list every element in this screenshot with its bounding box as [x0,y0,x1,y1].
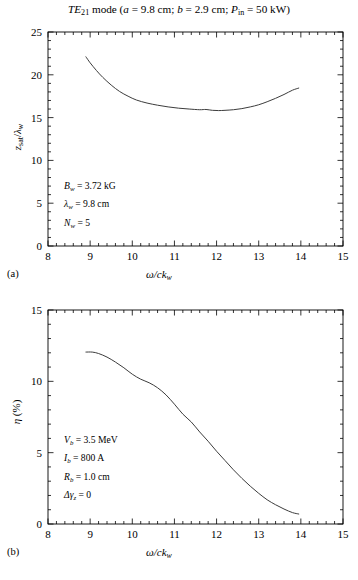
panel-a: 891011121314150510152025 zsat/λw ω/ckw B… [0,18,358,288]
svg-text:25: 25 [31,26,43,38]
xlabel-k-sub-b: w [167,551,172,560]
title-mode-sub: 21 [81,8,89,17]
annotation-vb-value: = 3.5 MeV [76,434,118,445]
annotation-lambdaw-sub: w [68,203,73,210]
title-b-symbol: b [177,3,183,15]
svg-text:11: 11 [169,528,180,540]
xlabel-k-sub: w [167,273,172,282]
svg-text:10: 10 [127,250,139,262]
svg-text:15: 15 [31,304,43,316]
ylabel-z-sub: sat [16,137,25,146]
svg-text:14: 14 [295,528,307,540]
panel-b-annotations: Vb = 3.5 MeV Ib = 800 A Rb = 1.0 cm Δγz … [64,432,118,506]
annotation-nw-sub: w [70,222,75,229]
ylabel-z: z [11,146,23,150]
panel-b-plot: 89101112131415051015 [0,296,358,566]
title-a-value: = 9.8 cm; [132,3,175,15]
annotation-rb: Rb = 1.0 cm [64,469,118,487]
annotation-rb-value: = 1.0 cm [76,471,110,482]
annotation-dgammaz-symbol: Δγ [64,489,73,500]
title-p-symbol: P [231,3,238,15]
annotation-ib-sub: b [67,457,70,464]
panel-b-ylabel: η (%) [10,382,22,442]
annotation-vb: Vb = 3.5 MeV [64,432,118,450]
svg-text:15: 15 [338,250,350,262]
title-mode-prefix: TE [68,3,81,15]
svg-text:13: 13 [253,250,265,262]
svg-text:5: 5 [37,197,43,209]
annotation-rb-sub: b [70,476,73,483]
ylabel-lambda: λ [11,129,23,134]
annotation-dgammaz: Δγz = 0 [64,487,118,505]
annotation-lambdaw: λw = 9.8 cm [64,196,116,214]
svg-text:20: 20 [31,69,43,81]
svg-text:8: 8 [45,528,51,540]
svg-text:14: 14 [295,250,307,262]
annotation-nw-value: = 5 [77,217,90,228]
svg-text:12: 12 [211,528,222,540]
panel-a-annotations: Bw = 3.72 kG λw = 9.8 cm Nw = 5 [64,178,116,233]
annotation-ib: Ib = 800 A [64,450,118,468]
panel-a-ylabel: zsat/λw [11,107,25,167]
svg-text:9: 9 [87,250,93,262]
title-mode-word: mode [92,3,117,15]
panel-a-xlabel: ω/ckw [146,268,172,282]
annotation-nw: Nw = 5 [64,215,116,233]
ylabel-lambda-sub: w [16,124,25,129]
panel-b-label: (b) [7,546,19,557]
ylabel-slash: / [11,134,23,137]
svg-text:9: 9 [87,528,93,540]
svg-text:8: 8 [45,250,51,262]
panel-b: 89101112131415051015 η (%) ω/ckw Vb = 3.… [0,296,358,580]
panel-b-xlabel: ω/ckw [146,546,172,560]
svg-text:11: 11 [169,250,180,262]
annotation-bw-value: = 3.72 kG [77,180,116,191]
panel-a-label: (a) [7,268,19,279]
svg-text:12: 12 [211,250,222,262]
title-b-value: = 2.9 cm; [186,3,229,15]
svg-text:13: 13 [253,528,265,540]
title-p-value: = 50 kW) [247,3,290,15]
svg-text:15: 15 [338,528,350,540]
annotation-lambdaw-value: = 9.8 cm [75,198,109,209]
panel-a-plot: 891011121314150510152025 [0,18,358,288]
annotation-dgammaz-value: = 0 [79,489,92,500]
ylabel-eta-unit: (%) [10,400,22,417]
ylabel-eta: η [10,419,22,424]
annotation-bw-sub: w [70,185,75,192]
svg-text:5: 5 [37,447,43,459]
title-p-sub: in [238,8,244,17]
title-a-symbol: a [123,3,129,15]
xlabel-omega: ω/c [146,268,162,280]
svg-text:10: 10 [31,154,43,166]
svg-text:0: 0 [37,240,43,252]
svg-text:10: 10 [31,375,43,387]
annotation-dgammaz-sub: z [73,494,76,501]
svg-text:10: 10 [127,528,139,540]
xlabel-omega-b: ω/c [146,546,162,558]
annotation-vb-sub: b [70,439,73,446]
annotation-bw: Bw = 3.72 kG [64,178,116,196]
figure-container: TE21 mode (a = 9.8 cm; b = 2.9 cm; Pin =… [0,0,358,580]
svg-text:0: 0 [37,518,43,530]
svg-text:15: 15 [31,112,43,124]
annotation-ib-value: = 800 A [73,452,104,463]
